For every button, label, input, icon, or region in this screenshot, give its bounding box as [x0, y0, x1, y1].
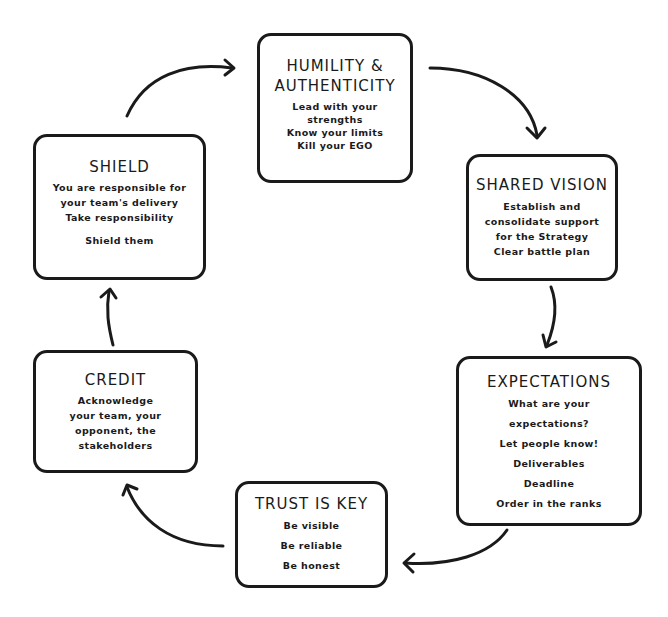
arrow-shared-vision-to-expectations [543, 287, 556, 347]
node-text: for the Strategy [496, 229, 589, 244]
node-trust-is-key: TRUST IS KEY Be visible Be reliable Be h… [235, 481, 388, 588]
node-text: expectations? [509, 414, 589, 434]
node-text: Be honest [283, 556, 340, 576]
arrow-shield-to-humility [127, 60, 234, 116]
node-text: Clear battle plan [494, 244, 590, 259]
node-text: your team, your [70, 408, 162, 423]
node-text: Lead with your [292, 100, 377, 113]
node-text: Take responsibility [65, 210, 173, 225]
node-text: What are your [508, 394, 590, 414]
node-expectations: EXPECTATIONS What are your expectations?… [456, 356, 642, 526]
node-text: Deadline [524, 474, 574, 494]
node-title: EXPECTATIONS [487, 372, 611, 392]
node-text: consolidate support [485, 214, 600, 229]
node-text: Kill your EGO [297, 139, 372, 152]
arrow-trust-to-credit [123, 485, 223, 546]
node-text: stakeholders [78, 438, 152, 453]
node-text: Be visible [284, 516, 340, 536]
arrow-humility-to-shared-vision [430, 68, 545, 138]
node-title: SHARED VISION [476, 175, 608, 195]
node-text: your team's delivery [61, 195, 179, 210]
node-text: Let people know! [499, 434, 598, 454]
node-credit: CREDIT Acknowledge your team, your oppon… [33, 350, 198, 473]
node-shared-vision: SHARED VISION Establish and consolidate … [466, 154, 618, 281]
node-text: Know your limits [287, 126, 383, 139]
node-shield: SHIELD You are responsible for your team… [33, 134, 206, 280]
node-title: TRUST IS KEY [255, 494, 368, 514]
node-text: opponent, the [75, 423, 156, 438]
node-title: AUTHENTICITY [274, 76, 395, 96]
node-text: strengths [307, 113, 362, 126]
node-text: You are responsible for [53, 180, 187, 195]
node-title: SHIELD [89, 157, 150, 177]
node-text: Establish and [503, 199, 580, 214]
arrow-credit-to-shield [101, 289, 116, 345]
node-title: HUMILITY & [286, 56, 383, 76]
node-title: CREDIT [85, 370, 147, 390]
node-text: Deliverables [513, 454, 585, 474]
node-text: Be reliable [281, 536, 343, 556]
node-text: Order in the ranks [496, 494, 601, 514]
node-text: Shield them [85, 233, 154, 248]
node-humility-authenticity: HUMILITY & AUTHENTICITY Lead with your s… [257, 33, 413, 183]
arrow-expectations-to-trust [404, 530, 507, 572]
node-text: Acknowledge [78, 393, 154, 408]
